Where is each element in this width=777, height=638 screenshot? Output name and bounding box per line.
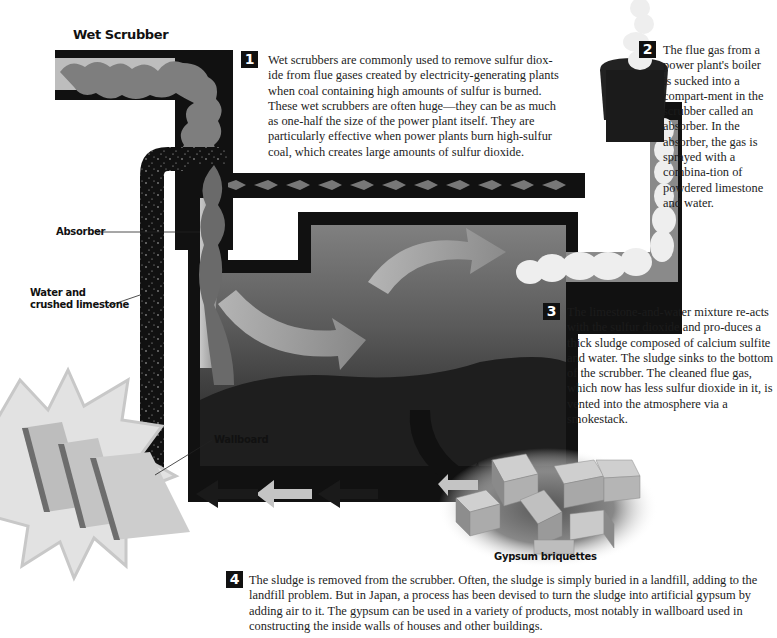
smokestack xyxy=(600,0,668,142)
wallboard-label: Wallboard xyxy=(214,434,268,446)
water-limestone-label-line1: Water and xyxy=(30,287,86,299)
water-limestone-label-line2: crushed limestone xyxy=(30,299,129,311)
step-2-number: 2 xyxy=(639,41,656,58)
step-3-number: 3 xyxy=(543,303,560,320)
absorber-label: Absorber xyxy=(56,226,105,238)
step-4-text: The sludge is removed from the scrubber.… xyxy=(249,573,761,634)
spray-pipe xyxy=(222,173,585,198)
step-1-number: 1 xyxy=(241,51,258,68)
gypsum-label: Gypsum briquettes xyxy=(494,551,597,563)
step-1-text: Wet scrubbers are commonly used to remov… xyxy=(268,53,562,160)
step-3-text: The limestone-and-water mixture re-acts … xyxy=(567,305,777,427)
step-2-text: The flue gas from a power plant's boiler… xyxy=(663,43,771,211)
step-4-number: 4 xyxy=(226,571,243,588)
diagram-title: Wet Scrubber xyxy=(73,27,168,42)
